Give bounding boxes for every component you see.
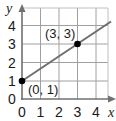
x-axis-label: x [107, 105, 115, 120]
point-3-3 [74, 41, 81, 48]
point-label-b: (3, 3) [45, 26, 75, 41]
y-tick-2: 2 [8, 55, 16, 71]
x-tick-3: 3 [74, 104, 82, 120]
x-tick-2: 2 [55, 104, 63, 120]
y-tick-0: 0 [8, 91, 16, 107]
x-tick-4: 4 [92, 104, 100, 120]
x-tick-0: 0 [18, 104, 26, 120]
y-tick-4: 4 [8, 18, 16, 34]
x-axis-arrow-icon [108, 96, 116, 103]
x-tick-1: 1 [37, 104, 45, 120]
point-0-1 [19, 78, 26, 85]
y-tick-3: 3 [8, 36, 16, 52]
y-tick-1: 1 [8, 73, 16, 89]
coordinate-plane: (0, 1) (3, 3) 4 3 2 1 0 0 1 2 3 4 y x [0, 0, 116, 121]
y-axis-label: y [4, 1, 13, 16]
point-label-a: (0, 1) [28, 82, 58, 97]
